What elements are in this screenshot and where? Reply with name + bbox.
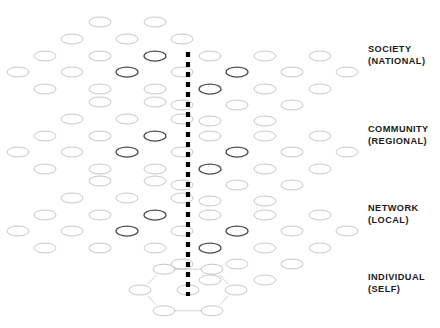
network-node (144, 210, 166, 220)
layer-society (7, 17, 358, 126)
network-node (309, 131, 331, 141)
network-node (201, 306, 223, 316)
network-node (254, 131, 276, 141)
network-node (144, 17, 166, 27)
network-node (144, 97, 166, 107)
network-node (254, 51, 276, 61)
layer-label-individual-line2: (SELF) (368, 284, 425, 296)
network-node (254, 164, 276, 174)
network-node (144, 131, 166, 141)
network-node (116, 147, 138, 157)
network-node (89, 97, 111, 107)
network-node (144, 84, 166, 94)
network-node (199, 84, 221, 94)
network-node (226, 180, 248, 190)
network-node (116, 193, 138, 203)
layer-label-network-line1: NETWORK (368, 203, 419, 213)
network-node (7, 226, 29, 236)
network-node (199, 131, 221, 141)
network-node (309, 164, 331, 174)
network-node (309, 51, 331, 61)
layer-community (7, 97, 358, 206)
network-node (34, 131, 56, 141)
network-node (89, 176, 111, 186)
network-node (336, 226, 358, 236)
network-node (254, 243, 276, 253)
network-node (61, 193, 83, 203)
network-node (309, 243, 331, 253)
network-node (144, 164, 166, 174)
layer-network (7, 176, 358, 285)
network-node (199, 210, 221, 220)
network-node (281, 67, 303, 77)
network-node (199, 196, 221, 206)
network-node (89, 243, 111, 253)
network-node (254, 196, 276, 206)
network-node (144, 51, 166, 61)
network-node (89, 164, 111, 174)
network-node (226, 67, 248, 77)
network-node (61, 114, 83, 124)
network-node (281, 226, 303, 236)
layer-label-community: COMMUNITY (REGIONAL) (368, 124, 429, 147)
network-node (116, 226, 138, 236)
layer-community-nodes (7, 97, 358, 206)
network-node (34, 243, 56, 253)
network-node (116, 67, 138, 77)
network-node (116, 34, 138, 44)
layer-label-network: NETWORK (LOCAL) (368, 203, 419, 226)
network-node (153, 306, 175, 316)
network-node (225, 285, 247, 295)
network-node (129, 285, 151, 295)
layer-label-individual: INDIVIDUAL (SELF) (368, 272, 425, 295)
network-node (199, 164, 221, 174)
network-node (254, 84, 276, 94)
network-node (226, 147, 248, 157)
network-node (153, 264, 175, 274)
network-node (7, 67, 29, 77)
network-node (89, 210, 111, 220)
network-node (199, 116, 221, 126)
network-node (199, 275, 221, 285)
network-node (144, 176, 166, 186)
layer-society-nodes (7, 17, 358, 126)
network-node (201, 264, 223, 274)
layer-network-nodes (7, 176, 358, 285)
network-node (34, 164, 56, 174)
network-node (226, 226, 248, 236)
network-node (199, 51, 221, 61)
network-node (309, 210, 331, 220)
network-node (144, 243, 166, 253)
network-node (171, 34, 193, 44)
network-node (336, 147, 358, 157)
network-node (61, 34, 83, 44)
network-node (281, 100, 303, 110)
layer-individual (129, 264, 247, 316)
network-node (281, 259, 303, 269)
network-node (116, 114, 138, 124)
network-node (61, 226, 83, 236)
network-node (199, 243, 221, 253)
network-node (89, 51, 111, 61)
layer-label-society: SOCIETY (NATIONAL) (368, 44, 425, 67)
network-node (281, 147, 303, 157)
network-node (89, 131, 111, 141)
layer-label-network-line2: (LOCAL) (368, 215, 419, 227)
network-node (89, 17, 111, 27)
layer-individual-nodes (129, 264, 247, 316)
layer-label-individual-line1: INDIVIDUAL (368, 272, 425, 282)
network-node (281, 180, 303, 190)
network-node (336, 67, 358, 77)
network-node (89, 84, 111, 94)
network-node (61, 67, 83, 77)
layer-label-society-line2: (NATIONAL) (368, 56, 425, 68)
network-node (34, 210, 56, 220)
layer-label-community-line2: (REGIONAL) (368, 136, 429, 148)
network-edge (220, 296, 228, 304)
layer-label-community-line1: COMMUNITY (368, 124, 429, 134)
network-node (254, 275, 276, 285)
network-edge (148, 275, 156, 283)
network-node (34, 84, 56, 94)
network-node (254, 210, 276, 220)
network-node (7, 147, 29, 157)
